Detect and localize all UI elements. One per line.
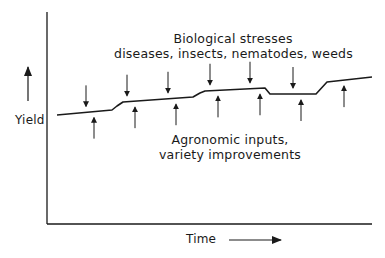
- variety-improvements-label: variety improvements: [140, 147, 320, 162]
- biological-stress-arrows: [86, 62, 293, 107]
- agronomic-inputs-title: Agronomic inputs,: [140, 132, 320, 147]
- biological-stresses-title: Biological stresses: [120, 31, 346, 46]
- biological-stresses-list: diseases, insects, nematodes, weeds: [114, 46, 352, 61]
- yield-curve: [57, 77, 372, 115]
- x-axis-label: Time: [186, 232, 216, 246]
- y-axis-label: Yield: [15, 113, 45, 127]
